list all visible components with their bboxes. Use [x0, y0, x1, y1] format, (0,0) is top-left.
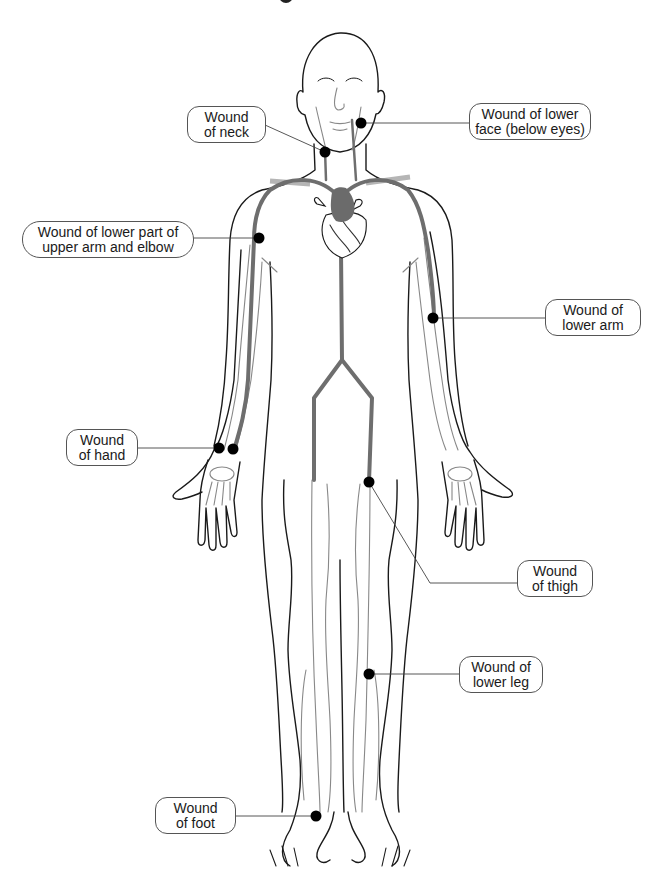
label-line-1: Wound of — [471, 660, 531, 675]
label-line-2: of thigh — [532, 579, 578, 594]
label-wound-of-lower-face: Wound of lower face (below eyes) — [469, 103, 591, 140]
label-line-2: of foot — [176, 816, 215, 831]
wound-dot-foot — [311, 811, 322, 822]
label-line-2: upper arm and elbow — [42, 240, 174, 255]
wound-dot-lower-arm — [428, 313, 439, 324]
label-line-2: of hand — [79, 448, 126, 463]
heart — [314, 187, 366, 258]
wound-dot-lower-leg — [364, 669, 375, 680]
label-line-1: Wound of — [563, 303, 623, 318]
right-hand — [442, 460, 484, 550]
label-wound-of-upper-arm-and-elbow: Wound of lower part of upper arm and elb… — [22, 221, 194, 258]
arterial-system — [234, 120, 434, 482]
wound-dot-neck — [320, 147, 331, 158]
left-hand — [198, 460, 240, 550]
legs — [270, 480, 410, 866]
wound-dot-hand-2 — [228, 444, 239, 455]
label-line-1: Wound — [173, 801, 217, 816]
label-line-1: Wound of lower part of — [38, 225, 179, 240]
label-line-2: lower leg — [473, 675, 529, 690]
label-wound-of-neck: Wound of neck — [187, 106, 266, 143]
wound-dot-lower-face — [356, 118, 367, 129]
wound-dot-hand-1 — [214, 443, 225, 454]
wound-dot-upper-arm-elbow — [254, 233, 265, 244]
label-wound-of-hand: Wound of hand — [66, 429, 138, 466]
label-line-1: Wound — [204, 110, 248, 125]
head — [297, 33, 385, 152]
wound-dot-thigh — [364, 477, 375, 488]
label-line-1: Wound — [80, 433, 124, 448]
label-line-1: Wound of lower — [481, 107, 578, 122]
label-wound-of-lower-leg: Wound of lower leg — [459, 656, 543, 693]
label-line-2: face (below eyes) — [475, 122, 585, 137]
label-wound-of-thigh: Wound of thigh — [517, 560, 593, 597]
label-line-2: lower arm — [562, 318, 623, 333]
label-wound-of-lower-arm: Wound of lower arm — [545, 299, 641, 336]
label-wound-of-foot: Wound of foot — [155, 797, 236, 834]
label-line-1: Wound — [533, 564, 577, 579]
label-line-2: of neck — [204, 125, 249, 140]
